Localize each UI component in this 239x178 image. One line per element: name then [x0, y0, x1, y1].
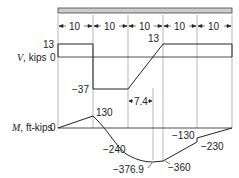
moment-axis-label: M, ft-kips	[11, 122, 53, 133]
segment-length-5: 10	[208, 21, 220, 32]
moment-label-376-9: −376.9	[113, 164, 144, 175]
segment-length-1: 10	[69, 21, 81, 32]
moment-zero-label: 0	[50, 122, 56, 133]
shear-min-label: −37	[72, 84, 89, 95]
moment-label-240: −240	[103, 144, 126, 155]
moment-curve	[58, 116, 232, 162]
moment-label-230: −230	[201, 141, 224, 152]
shear-curve	[58, 44, 232, 89]
zero-crossing-distance: 7.4	[134, 96, 148, 107]
shear-moment-diagram: 10 10 10 10 10 13 V, kips 0 −37 13 7.4 M…	[0, 0, 239, 178]
segment-length-4: 10	[174, 21, 186, 32]
segment-length-3: 10	[139, 21, 151, 32]
shear-axis-label: V, kips	[17, 52, 46, 63]
moment-label-130: 130	[96, 107, 113, 118]
beam	[58, 8, 232, 13]
shear-max-label: 13	[148, 33, 160, 44]
shear-top-label: 13	[43, 39, 55, 50]
segment-length-2: 10	[104, 21, 116, 32]
moment-label-360: −360	[168, 162, 191, 173]
moment-label-130-neg: −130	[172, 130, 195, 141]
shear-zero-label: 0	[50, 52, 56, 63]
